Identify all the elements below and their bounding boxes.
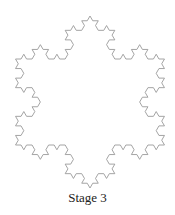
figure-caption: Stage 3: [0, 190, 175, 206]
koch-snowflake-outline: [16, 16, 165, 188]
koch-snowflake-diagram: [0, 0, 175, 195]
